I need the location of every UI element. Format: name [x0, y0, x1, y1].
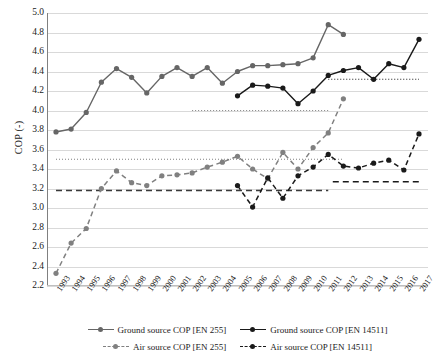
data-point [84, 110, 89, 115]
legend-row: Air source COP [EN 255]Air source COP [E… [47, 339, 428, 354]
legend-label: Air source COP [EN 255] [133, 342, 226, 352]
data-point [129, 180, 134, 185]
data-point [371, 77, 376, 82]
data-point [280, 85, 285, 90]
data-point [220, 160, 225, 165]
data-point [326, 152, 331, 157]
data-point [190, 170, 195, 175]
data-point [144, 90, 149, 95]
data-point [280, 196, 285, 201]
data-point [341, 163, 346, 168]
legend-item[interactable]: Ground source COP [EN 255] [88, 322, 227, 337]
data-point [69, 241, 74, 246]
data-point [159, 74, 164, 79]
data-point [341, 68, 346, 73]
data-point [280, 62, 285, 67]
y-tick-label: 3.4 [4, 164, 44, 174]
series-2 [53, 96, 346, 276]
data-point [265, 84, 270, 89]
data-point [280, 150, 285, 155]
series-1 [235, 37, 422, 107]
data-point [311, 55, 316, 60]
data-point [159, 173, 164, 178]
data-point [295, 61, 300, 66]
data-point [371, 161, 376, 166]
data-point [311, 88, 316, 93]
data-point [326, 73, 331, 78]
legend-item[interactable]: Ground source COP [EN 14511] [240, 322, 387, 337]
legend-label: Ground source COP [EN 255] [118, 325, 227, 335]
data-point [295, 101, 300, 106]
y-tick-label: 4.0 [4, 106, 44, 116]
series-line [238, 134, 420, 207]
data-point [265, 63, 270, 68]
data-point [386, 158, 391, 163]
y-tick-label: 3.8 [4, 125, 44, 135]
data-point [311, 145, 316, 150]
data-point [235, 154, 240, 159]
data-point [250, 204, 255, 209]
data-point [53, 271, 58, 276]
data-point [144, 183, 149, 188]
data-point [99, 186, 104, 191]
legend-label: Air source COP [EN 14511] [270, 342, 372, 352]
y-tick-label: 2.2 [4, 281, 44, 291]
y-tick-label: 3.6 [4, 145, 44, 155]
legend-marker-icon [240, 325, 266, 334]
data-point [220, 81, 225, 86]
plot-area [47, 13, 428, 286]
legend-item[interactable]: Air source COP [EN 255] [103, 339, 226, 354]
y-tick-label: 4.8 [4, 28, 44, 38]
data-point [114, 168, 119, 173]
data-point [265, 175, 270, 180]
y-tick-label: 5.0 [4, 8, 44, 18]
data-point [174, 65, 179, 70]
legend-item[interactable]: Air source COP [EN 14511] [240, 339, 372, 354]
data-point [129, 75, 134, 80]
data-point [416, 131, 421, 136]
legend-row: Ground source COP [EN 255]Ground source … [47, 322, 428, 337]
data-point [69, 126, 74, 131]
data-point [235, 69, 240, 74]
series-line [238, 39, 420, 103]
legend-label: Ground source COP [EN 14511] [270, 325, 387, 335]
data-point [341, 32, 346, 37]
data-point [235, 183, 240, 188]
data-point [205, 65, 210, 70]
legend-marker-icon [103, 342, 129, 351]
data-point [341, 96, 346, 101]
series-line [56, 99, 343, 274]
data-point [99, 80, 104, 85]
data-point [356, 65, 361, 70]
y-axis-ticks: 2.22.42.62.83.03.23.43.63.84.04.24.44.64… [0, 13, 44, 286]
data-point [84, 226, 89, 231]
legend-marker-icon [88, 325, 114, 334]
chart-root: COP (-) 2.22.42.62.83.03.23.43.63.84.04.… [0, 0, 437, 362]
data-point [401, 65, 406, 70]
data-point [416, 37, 421, 42]
y-tick-label: 4.2 [4, 86, 44, 96]
data-point [401, 167, 406, 172]
y-tick-label: 2.6 [4, 242, 44, 252]
data-point [190, 74, 195, 79]
data-point [250, 166, 255, 171]
data-point [235, 93, 240, 98]
data-point [205, 164, 210, 169]
y-tick-label: 2.8 [4, 223, 44, 233]
y-tick-label: 4.6 [4, 47, 44, 57]
data-point [386, 61, 391, 66]
data-point [295, 173, 300, 178]
legend-marker-icon [240, 342, 266, 351]
data-point [114, 66, 119, 71]
y-tick-label: 3.0 [4, 203, 44, 213]
series-3 [235, 131, 422, 209]
data-point [356, 165, 361, 170]
series-0 [53, 22, 346, 134]
y-tick-label: 4.4 [4, 67, 44, 77]
data-point [53, 129, 58, 134]
series-line [56, 25, 343, 132]
data-point [174, 172, 179, 177]
data-point [250, 83, 255, 88]
data-point [326, 130, 331, 135]
data-point [250, 63, 255, 68]
